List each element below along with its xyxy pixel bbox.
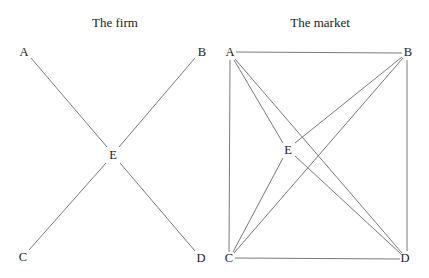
firm-node-b: B: [198, 46, 206, 59]
market-node-d: D: [400, 252, 409, 265]
market-edge-a-e: [234, 60, 283, 143]
market-edge-d-e: [295, 156, 401, 254]
firm-edge-a-e: [31, 58, 107, 147]
firm-node-c: C: [19, 251, 27, 264]
edges-layer: [0, 0, 429, 278]
market-node-b: B: [404, 46, 412, 59]
market-title: The market: [290, 16, 350, 29]
firm-edge-c-e: [29, 163, 106, 250]
firm-node-e: E: [109, 149, 117, 162]
firm-node-d: D: [196, 252, 205, 265]
market-edge-b-e: [295, 57, 402, 143]
firm-node-a: A: [19, 46, 28, 59]
firm-edge-d-e: [120, 163, 195, 251]
market-node-c: C: [225, 252, 233, 265]
market-edge-a-b: [236, 52, 402, 53]
firm-edge-b-e: [119, 58, 195, 147]
market-node-e: E: [284, 144, 292, 157]
market-edge-c-d: [235, 258, 400, 259]
diagram-canvas: The firm A B E C D The market A B E C D: [0, 0, 429, 278]
market-node-a: A: [225, 46, 234, 59]
market-edge-a-c: [229, 60, 230, 252]
firm-title: The firm: [92, 16, 138, 29]
